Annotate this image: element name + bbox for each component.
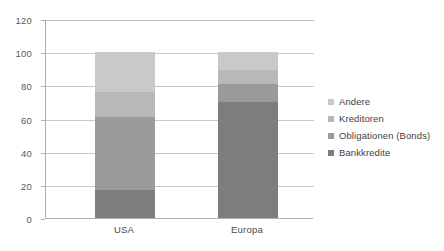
bar-segment-usa-obligationen-bonds[interactable]: [95, 117, 155, 190]
x-axis-label-europa: Europa: [231, 224, 263, 235]
y-tick-label-20: 20: [21, 180, 32, 191]
y-tick-mark-0: [41, 219, 45, 220]
legend-item-label: Kreditoren: [339, 113, 384, 124]
bar-usa[interactable]: [95, 19, 155, 218]
x-axis-labels: USAEuropa: [45, 224, 313, 242]
legend-swatch-icon: [328, 150, 334, 156]
stacked-bar-chart: 020406080100120 USAEuropa AndereKreditor…: [0, 0, 444, 251]
bar-segment-europa-kreditoren[interactable]: [218, 70, 278, 83]
legend-item-andere[interactable]: Andere: [328, 93, 440, 110]
y-tick-label-0: 0: [27, 214, 32, 225]
legend-swatch-icon: [328, 116, 334, 122]
legend-item-bankkredite[interactable]: Bankkredite: [328, 144, 440, 161]
y-tick-label-40: 40: [21, 147, 32, 158]
bar-segment-europa-obligationen-bonds[interactable]: [218, 84, 278, 102]
bar-segment-europa-andere[interactable]: [218, 52, 278, 70]
legend-item-label: Obligationen (Bonds): [339, 130, 430, 141]
legend-swatch-icon: [328, 133, 334, 139]
bar-segment-usa-kreditoren[interactable]: [95, 92, 155, 117]
y-tick-label-120: 120: [16, 15, 32, 26]
y-tick-label-60: 60: [21, 114, 32, 125]
y-axis: 020406080100120: [0, 20, 38, 219]
bars-layer: [46, 20, 313, 218]
y-tick-label-100: 100: [16, 48, 32, 59]
legend-item-obligationen-bonds[interactable]: Obligationen (Bonds): [328, 127, 440, 144]
legend-item-kreditoren[interactable]: Kreditoren: [328, 110, 440, 127]
bar-segment-usa-bankkredite[interactable]: [95, 190, 155, 218]
plot-area: [45, 20, 313, 219]
legend-swatch-icon: [328, 99, 334, 105]
legend-item-label: Andere: [339, 96, 370, 107]
bar-segment-europa-bankkredite[interactable]: [218, 102, 278, 218]
x-axis-label-usa: USA: [114, 224, 134, 235]
y-tick-label-80: 80: [21, 81, 32, 92]
chart-legend: AndereKreditorenObligationen (Bonds)Bank…: [328, 93, 440, 161]
bar-europa[interactable]: [218, 19, 278, 218]
bar-segment-usa-andere[interactable]: [95, 52, 155, 92]
legend-item-label: Bankkredite: [339, 147, 390, 158]
